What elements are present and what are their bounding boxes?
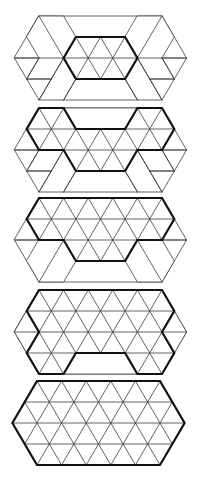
panel-3 — [0, 198, 208, 282]
hexagon-tiling-figure — [0, 0, 208, 478]
panel-5 — [0, 381, 208, 465]
panels-group — [0, 16, 208, 465]
panel-2 — [0, 108, 208, 192]
panel-4 — [0, 290, 208, 374]
panel-1 — [0, 16, 208, 100]
triangular-lattice — [0, 381, 208, 465]
